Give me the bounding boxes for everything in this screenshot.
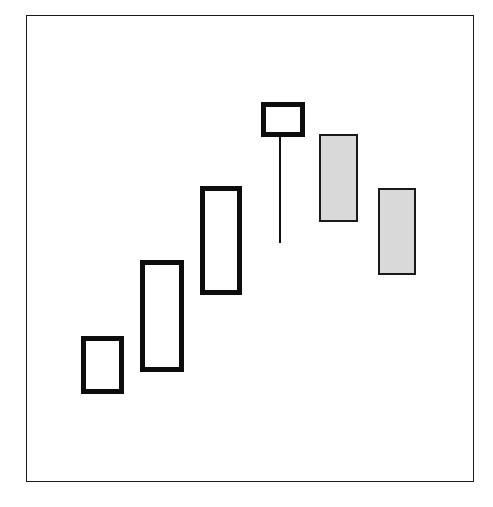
candle-2-body (140, 260, 184, 372)
candle-6-body (378, 188, 416, 275)
candle-1-body (81, 336, 124, 394)
candle-series (0, 0, 493, 507)
candle-5-body (319, 134, 358, 222)
candle-3-body (200, 186, 242, 295)
candlestick-figure (0, 0, 493, 507)
candle-4-body (261, 102, 305, 137)
candle-4-wick (279, 137, 281, 243)
